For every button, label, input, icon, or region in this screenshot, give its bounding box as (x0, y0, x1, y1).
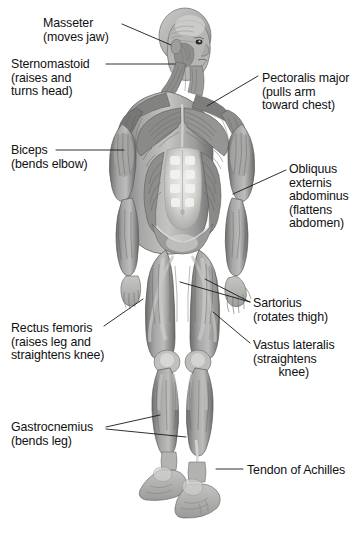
leader-line-gastrocnemius (106, 415, 186, 437)
callout-vastus-lateralis-line-2: (straightens (253, 353, 335, 367)
callout-vastus-lateralis-line-3: knee) (253, 366, 335, 380)
callout-obliquus-externis-abdominus-line-3: abdominus (289, 190, 349, 204)
leader-line-obliquus-externis-abdominus (233, 170, 286, 194)
callout-sartorius: Sartorius(rotates thigh) (253, 297, 328, 324)
callout-masseter: Masseter(moves jaw) (43, 17, 109, 44)
callout-rectus-femoris: Rectus femoris(raises leg andstraightens… (11, 322, 104, 363)
callout-vastus-lateralis-line-1: Vastus lateralis (253, 339, 335, 353)
leader-line-sartorius (180, 279, 250, 302)
callout-gastrocnemius-line-1: Gastrocnemius (11, 421, 93, 435)
callout-vastus-lateralis: Vastus lateralis(straightensknee) (253, 339, 335, 380)
callout-rectus-femoris-line-1: Rectus femoris (11, 322, 104, 336)
callout-sartorius-line-1: Sartorius (253, 297, 328, 311)
anatomy-figure-stage: Masseter(moves jaw)Sternomastoid(raises … (0, 0, 364, 540)
callout-sternomastoid: Sternomastoid(raises andturns head) (11, 58, 90, 99)
callout-sternomastoid-line-3: turns head) (11, 85, 90, 99)
callout-biceps-line-1: Biceps (11, 144, 88, 158)
leader-line-rectus-femoris (104, 299, 143, 326)
callout-biceps: Biceps(bends elbow) (11, 144, 88, 171)
callout-tendon-of-achilles-line-1: Tendon of Achilles (247, 464, 345, 478)
callout-obliquus-externis-abdominus-line-1: Obliquus (289, 163, 349, 177)
callout-gastrocnemius: Gastrocnemius(bends leg) (11, 421, 93, 448)
callout-obliquus-externis-abdominus-line-4: (flattens (289, 204, 349, 218)
callout-sternomastoid-line-1: Sternomastoid (11, 58, 90, 72)
callout-pectoralis-major: Pectoralis major(pulls armtoward chest) (262, 72, 349, 113)
callout-obliquus-externis-abdominus: Obliquusexternisabdominus(flattensabdome… (289, 163, 349, 231)
callout-pectoralis-major-line-2: (pulls arm (262, 86, 349, 100)
callout-rectus-femoris-line-2: (raises leg and (11, 336, 104, 350)
callout-pectoralis-major-line-1: Pectoralis major (262, 72, 349, 86)
callout-gastrocnemius-line-2: (bends leg) (11, 435, 93, 449)
callout-sternomastoid-line-2: (raises and (11, 72, 90, 86)
callout-masseter-line-2: (moves jaw) (43, 31, 109, 45)
callout-biceps-line-2: (bends elbow) (11, 158, 88, 172)
callout-pectoralis-major-line-3: toward chest) (262, 99, 349, 113)
callout-obliquus-externis-abdominus-line-5: abdomen) (289, 217, 349, 231)
callout-rectus-femoris-line-3: straightens knee) (11, 349, 104, 363)
callout-masseter-line-1: Masseter (43, 17, 109, 31)
leader-line-pectoralis-major (207, 76, 258, 106)
leader-line-vastus-lateralis (213, 312, 250, 343)
callout-tendon-of-achilles: Tendon of Achilles (247, 464, 345, 478)
leader-line-masseter (122, 24, 171, 45)
callout-obliquus-externis-abdominus-line-2: externis (289, 177, 349, 191)
callout-sartorius-line-2: (rotates thigh) (253, 311, 328, 325)
